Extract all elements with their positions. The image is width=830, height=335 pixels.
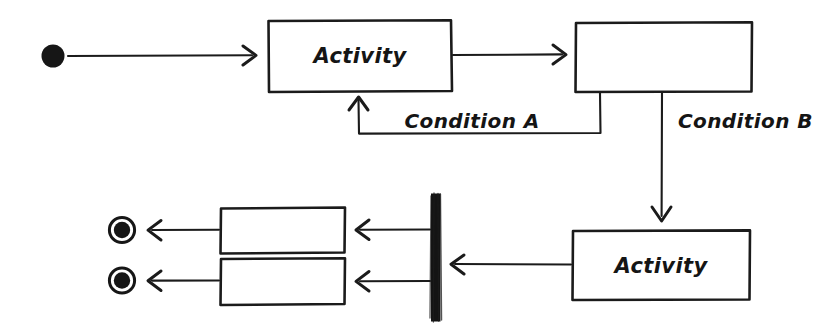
edge-activity2-to-fork (451, 255, 571, 274)
condition-b-label: Condition B (678, 109, 813, 133)
fork-join-bar[interactable] (430, 193, 442, 322)
edge-condition-b: Condition B (652, 93, 813, 221)
empty-node-lower[interactable] (221, 258, 346, 305)
activity-node-2-label: Activity (612, 254, 708, 278)
edge-condition-a: Condition A (349, 93, 601, 134)
empty-node-upper[interactable] (221, 208, 346, 254)
activity-node-1[interactable]: Activity (269, 20, 453, 92)
diagram-canvas: Activity Condition A Condition B Activi (0, 0, 830, 335)
edge-activity1-to-box2 (453, 45, 566, 64)
activity-node-1-label: Activity (311, 44, 407, 68)
edge-upper-box-to-final (148, 221, 219, 241)
activity-diagram: Activity Condition A Condition B Activi (0, 0, 830, 335)
activity-node-2[interactable]: Activity (573, 230, 751, 300)
edge-lower-box-to-final (148, 271, 219, 291)
edge-fork-to-lower-box (356, 272, 430, 292)
initial-node-icon[interactable] (42, 45, 65, 68)
final-node-upper[interactable] (109, 217, 134, 242)
final-node-lower[interactable] (109, 268, 134, 293)
empty-node-top-right[interactable] (576, 22, 753, 92)
condition-a-label: Condition A (404, 109, 539, 133)
edge-fork-to-upper-box (356, 220, 430, 240)
edge-initial-to-activity1 (68, 46, 256, 65)
